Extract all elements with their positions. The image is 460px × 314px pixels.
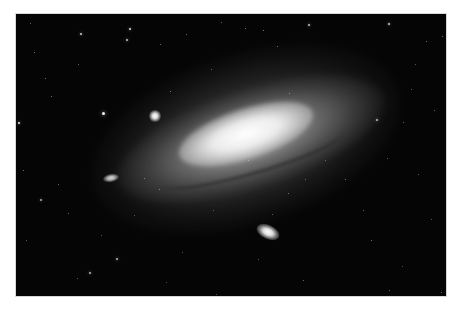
star (263, 30, 264, 31)
star (441, 292, 442, 293)
star (30, 23, 31, 24)
star (18, 122, 20, 124)
star (26, 240, 27, 241)
star (80, 33, 82, 35)
star (248, 160, 249, 161)
star (403, 122, 404, 123)
star (258, 259, 259, 260)
star (288, 193, 289, 194)
star (159, 189, 160, 190)
star (289, 93, 290, 94)
star (411, 89, 412, 90)
star (134, 215, 135, 216)
star (160, 44, 161, 45)
star (102, 112, 105, 115)
star (89, 272, 91, 274)
star (116, 258, 118, 260)
star (308, 24, 310, 26)
star (389, 290, 390, 291)
star (272, 214, 273, 215)
star (58, 184, 59, 185)
star (68, 213, 69, 214)
star (216, 294, 217, 295)
star (363, 210, 364, 211)
star (186, 34, 187, 35)
star (182, 252, 183, 253)
star (371, 240, 372, 241)
star (170, 91, 171, 92)
star (166, 282, 167, 283)
star (45, 78, 46, 79)
satellite-galaxy-m32 (149, 110, 161, 122)
star (34, 52, 35, 53)
star (129, 28, 131, 30)
star (101, 235, 102, 236)
star (221, 22, 222, 23)
star (415, 64, 416, 65)
star (303, 280, 304, 281)
star (40, 199, 42, 201)
star (387, 158, 388, 159)
star (345, 179, 346, 180)
andromeda-galaxy-photo (16, 14, 446, 296)
star (126, 39, 128, 41)
star (277, 46, 278, 47)
satellite-galaxy-m110 (254, 221, 282, 244)
star (77, 278, 78, 279)
star (388, 23, 390, 25)
star (426, 41, 427, 42)
star (434, 110, 435, 111)
star (402, 266, 403, 267)
star (431, 219, 432, 220)
star (211, 69, 212, 70)
star (305, 179, 306, 180)
star (376, 119, 378, 121)
star (144, 178, 145, 179)
star (51, 96, 52, 97)
star (78, 64, 79, 65)
star (213, 210, 214, 211)
star (418, 174, 419, 175)
star (23, 170, 24, 171)
star (245, 28, 246, 29)
star (325, 160, 326, 161)
star (442, 36, 443, 37)
